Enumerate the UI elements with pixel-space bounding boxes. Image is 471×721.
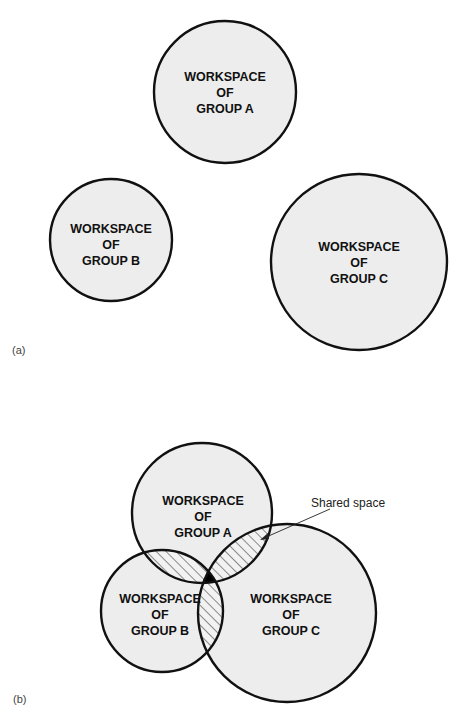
workspace-group-a: WORKSPACE OF GROUP A (154, 21, 296, 163)
svg-text:OF: OF (282, 608, 300, 622)
workspace-label-line2: OF (102, 238, 120, 252)
svg-text:GROUP C: GROUP C (262, 624, 320, 638)
svg-text:WORKSPACE: WORKSPACE (119, 592, 201, 606)
workspace-label-line1: WORKSPACE (70, 222, 152, 236)
panel-label-a: (a) (12, 344, 25, 356)
panel-b: WORKSPACE OF GROUP A WORKSPACE OF GROUP … (13, 443, 385, 705)
svg-text:WORKSPACE: WORKSPACE (162, 494, 244, 508)
workspace-group-b: WORKSPACE OF GROUP B (50, 179, 172, 301)
svg-text:GROUP A: GROUP A (174, 526, 232, 540)
workspace-diagram: WORKSPACE OF GROUP A WORKSPACE OF GROUP … (0, 0, 471, 721)
workspace-label-line2: OF (216, 86, 234, 100)
workspace-label-line3: GROUP A (196, 102, 254, 116)
workspace-label-line1: WORKSPACE (318, 240, 400, 254)
svg-text:OF: OF (151, 608, 169, 622)
workspace-label-line1: WORKSPACE (184, 70, 266, 84)
workspace-label-line2: OF (350, 256, 368, 270)
panel-a: WORKSPACE OF GROUP A WORKSPACE OF GROUP … (12, 21, 447, 356)
panel-label-b: (b) (13, 693, 26, 705)
svg-text:GROUP B: GROUP B (131, 624, 189, 638)
callout-label: Shared space (311, 496, 385, 510)
svg-text:WORKSPACE: WORKSPACE (250, 592, 332, 606)
svg-text:OF: OF (194, 510, 212, 524)
workspace-label-line3: GROUP C (330, 272, 388, 286)
workspace-group-c: WORKSPACE OF GROUP C (271, 174, 447, 350)
workspace-label-line3: GROUP B (82, 254, 140, 268)
